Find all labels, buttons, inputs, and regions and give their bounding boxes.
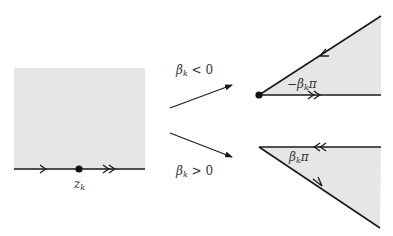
wedge-top-vertex-dot [255,91,262,98]
map-arrow-up [170,85,232,108]
conformal-map-diagram: zk βk < 0 βk > 0 −βkπ βkπ [0,0,393,236]
wedge-top-angle-label: −βkπ [287,77,318,92]
map-arrow-down [170,133,232,157]
source-shaded-area [14,68,145,169]
source-region: zk [14,68,145,192]
point-zk-label: zk [73,177,85,192]
wedge-top: −βkπ [255,16,381,99]
transform-down: βk > 0 [170,133,232,179]
condition-beta-negative-label: βk < 0 [175,63,213,78]
transform-up: βk < 0 [170,63,232,108]
point-zk-dot [75,165,82,172]
wedge-bottom: βkπ [259,143,381,228]
condition-beta-positive-label: βk > 0 [175,164,213,179]
